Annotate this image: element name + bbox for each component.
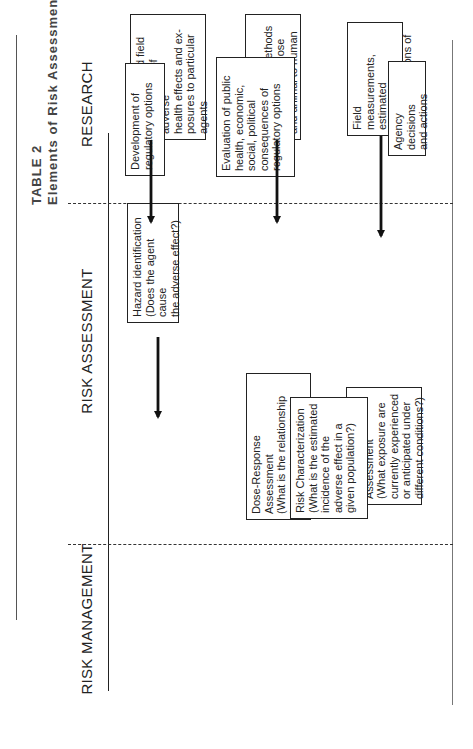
arrow-development-to-evaluation <box>118 78 179 151</box>
connectors <box>0 0 473 749</box>
risk-diagram: TABLE 2 Elements of Risk Assessment and … <box>0 0 473 749</box>
